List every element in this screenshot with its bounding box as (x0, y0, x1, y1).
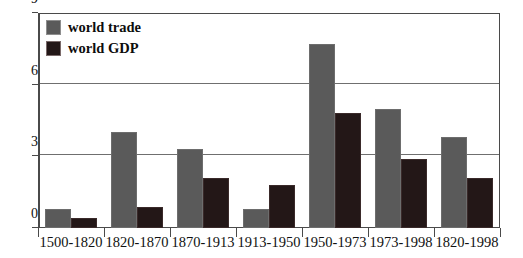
bar-world-gdp (401, 159, 427, 228)
bar-world-trade (111, 132, 137, 228)
x-tick-label: 1820-1998 (434, 233, 500, 251)
x-tick-label: 1913-1950 (236, 233, 302, 251)
bar-chart: 0369 1500-18201820-18701870-19131913-195… (0, 0, 523, 258)
bar-world-trade (309, 44, 335, 228)
bar-world-gdp (467, 178, 493, 228)
bar-world-gdp (269, 185, 295, 228)
y-tick-label-3: 3 (10, 135, 38, 149)
y-tick-label-0: 0 (10, 207, 38, 221)
bar-group (302, 13, 368, 228)
bar-group (170, 13, 236, 228)
x-tick-label: 1973-1998 (368, 233, 434, 251)
bar-world-trade (243, 209, 269, 228)
x-tick-label: 1500-1820 (38, 233, 104, 251)
bar-world-gdp (203, 178, 229, 228)
bar-group (434, 13, 500, 228)
y-axis: 0369 (0, 13, 38, 228)
bar-world-gdp (335, 113, 361, 228)
bar-world-trade (45, 209, 71, 228)
y-tick-label-9: 9 (10, 0, 38, 6)
legend-item: world GDP (46, 40, 141, 57)
chart-legend: world tradeworld GDP (46, 19, 141, 57)
x-tick-label: 1950-1973 (302, 233, 368, 251)
x-axis-labels: 1500-18201820-18701870-19131913-19501950… (38, 233, 500, 251)
bar-world-gdp (137, 207, 163, 229)
bar-world-trade (375, 109, 401, 228)
bar-group (236, 13, 302, 228)
legend-item-label: world trade (68, 20, 141, 35)
x-tick-label: 1870-1913 (170, 233, 236, 251)
gray-swatch-icon (46, 20, 61, 35)
bar-group (368, 13, 434, 228)
y-tick-label-6: 6 (10, 64, 38, 78)
x-tick-label: 1820-1870 (104, 233, 170, 251)
black-swatch-icon (46, 41, 61, 56)
bar-world-gdp (71, 218, 97, 228)
legend-item: world trade (46, 19, 141, 36)
x-axis-separator (500, 228, 501, 237)
bar-world-trade (177, 149, 203, 228)
bar-world-trade (441, 137, 467, 228)
legend-item-label: world GDP (68, 41, 138, 56)
